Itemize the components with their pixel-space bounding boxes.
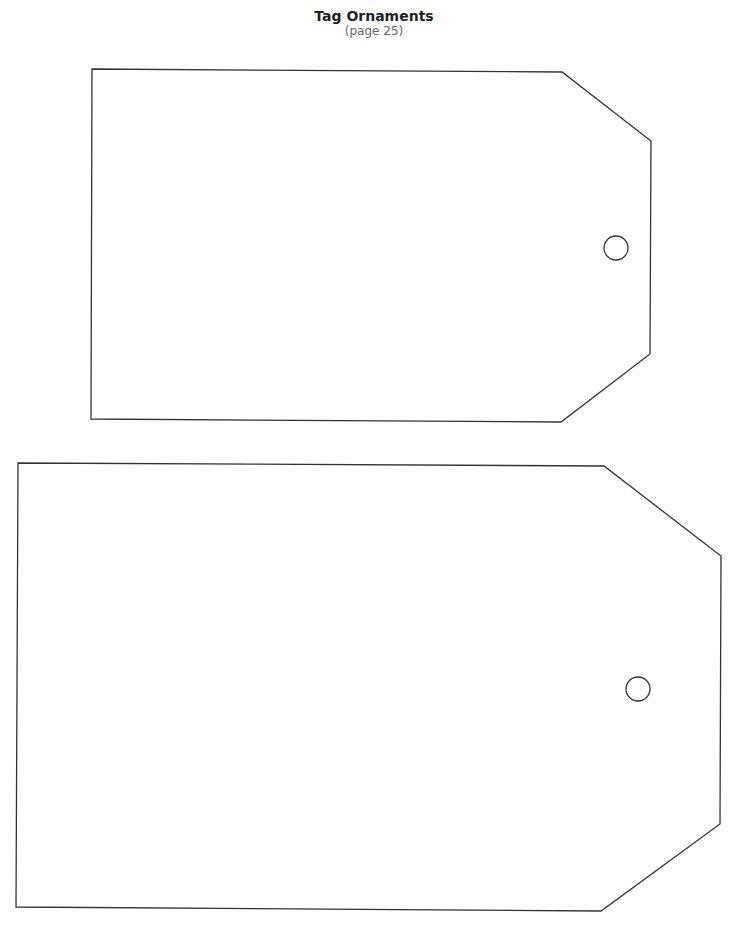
large-tag-outline <box>16 463 721 911</box>
large-tag <box>16 463 721 911</box>
large-tag-hole-icon <box>626 677 650 701</box>
small-tag-outline <box>91 69 651 422</box>
small-tag <box>91 69 651 422</box>
tag-templates <box>0 0 748 932</box>
small-tag-hole-icon <box>604 236 628 260</box>
